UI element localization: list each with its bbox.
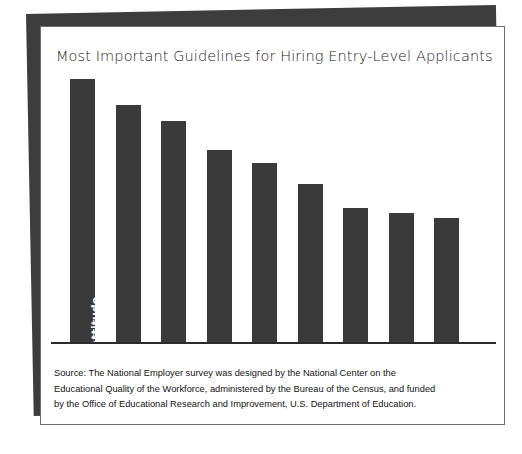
source-note-line-2: Educational Quality of the Workforce, ad… (54, 382, 482, 398)
bar[interactable] (434, 218, 459, 342)
chart-baseline-axis (51, 342, 496, 344)
chart-title: Most Important Guidelines for Hiring Ent… (56, 48, 493, 64)
bar-group: School reputation (434, 79, 459, 342)
chart-card: Most Important Guidelines for Hiring Ent… (40, 26, 505, 425)
bar[interactable] (70, 79, 95, 342)
bar[interactable] (207, 150, 232, 342)
bar[interactable] (116, 105, 141, 342)
bar[interactable] (343, 208, 368, 342)
bar-group: Industry-based credentials (252, 79, 277, 342)
bar-group: Attitude (70, 79, 95, 342)
source-note: Source: The National Employer survey was… (54, 366, 482, 413)
source-note-line-1: Source: The National Employer survey was… (54, 366, 482, 382)
source-note-line-3: by the Office of Educational Research an… (54, 397, 482, 413)
bar-group: Previous work experience (161, 79, 186, 342)
bar[interactable] (298, 184, 323, 342)
bar-chart-plot-area: AttitudeCommunication skillsPrevious wor… (56, 79, 491, 342)
bar[interactable] (161, 121, 186, 342)
bar[interactable] (252, 163, 277, 342)
bar[interactable] (389, 213, 414, 342)
bar-group: School grades (389, 79, 414, 342)
bar-group: Communication skills (116, 79, 141, 342)
bar-group: Interview testing (343, 79, 368, 342)
bar-group: School completed (298, 79, 323, 342)
bar-group: Employer recommendations (207, 79, 232, 342)
